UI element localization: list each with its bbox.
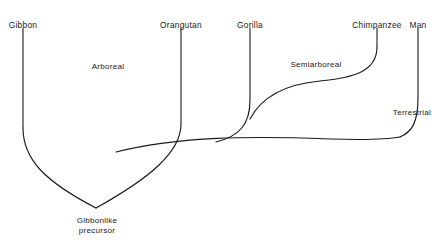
orangutan-branch-curve (96, 124, 181, 208)
root-label-line1: Gibbonlike (77, 216, 118, 226)
zone-label-semiarboreal: Semiarboreal (290, 60, 341, 70)
tip-label-man: Man (409, 20, 426, 31)
root-label-line2: precursor (77, 226, 118, 236)
figure-canvas: Gibbon Orangutan Gorilla Chimpanzee Man … (0, 0, 445, 247)
zone-label-terrestrial: Terrestrial (393, 108, 431, 118)
tree-branches (23, 28, 418, 208)
trunk-curve (116, 137, 400, 152)
phylogenetic-tree-graphic (0, 0, 445, 247)
gorilla-branch-curve (216, 100, 250, 142)
zone-label-arboreal: Arboreal (92, 62, 125, 72)
gibbon-branch-curve (23, 128, 96, 208)
semiarboreal-branch-curve (250, 47, 377, 119)
tip-label-gibbon: Gibbon (9, 20, 38, 31)
root-label-gibbonlike-precursor: Gibbonlike precursor (77, 216, 118, 236)
tip-label-orangutan: Orangutan (160, 20, 202, 31)
tip-label-chimpanzee: Chimpanzee (352, 20, 402, 31)
tip-label-gorilla: Gorilla (237, 20, 263, 31)
